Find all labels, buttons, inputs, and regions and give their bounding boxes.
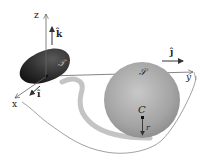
x-axis-label: x	[12, 99, 17, 109]
diagram-canvas: z k̂ 𝒯 ĵ y 𝒮 C r î x	[0, 0, 208, 161]
k-unit-vector-label: k̂	[56, 27, 63, 39]
i-unit-vector-label: î	[37, 89, 41, 99]
sphere-center-point	[141, 116, 144, 119]
origin-point	[46, 75, 49, 78]
y-axis-label: y	[185, 72, 192, 82]
j-unit-vector-label: ĵ	[169, 47, 174, 57]
z-axis-label: z	[34, 10, 39, 20]
sphere-center-label: C	[138, 104, 146, 115]
